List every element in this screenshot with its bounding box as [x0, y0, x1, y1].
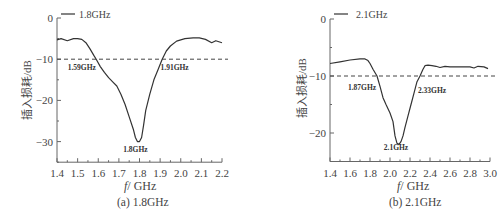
x-tick-label: 1.4	[50, 167, 64, 179]
x-axis-label: f/ GHz	[124, 180, 156, 192]
x-tick-label: 1.8	[133, 167, 147, 179]
x-axis-label: f/ GHz	[397, 180, 429, 192]
chart-caption: (a) 1.8GHz	[117, 197, 169, 209]
legend-label: 2.1GHz	[356, 10, 387, 20]
x-tick-label: 2.6	[443, 167, 457, 179]
annotation-label: 2.33GHz	[418, 86, 447, 95]
y-tick-label: −30	[36, 136, 54, 148]
x-tick-label: 1.5	[71, 167, 85, 179]
x-tick-label: 2.1	[195, 167, 209, 179]
x-tick-label: 1.8	[363, 167, 377, 179]
x-tick-label: 2.0	[383, 167, 397, 179]
x-tick-label: 3.0	[483, 167, 497, 179]
y-tick-label: −10	[36, 53, 54, 65]
annotation-label: 1.87GHz	[348, 83, 377, 92]
series-line	[330, 59, 488, 144]
x-tick-label: 2.4	[423, 167, 437, 179]
chart-b-plot: 0−10−201.41.61.82.02.22.42.62.83.01.87GH…	[252, 0, 504, 218]
x-tick-label: 2.2	[403, 167, 417, 179]
x-tick-label: 2.0	[174, 167, 188, 179]
y-axis-label: 插入损耗/dB	[22, 60, 33, 120]
y-tick-label: 0	[321, 13, 327, 25]
annotation-label: 1.8GHz	[123, 145, 148, 154]
x-tick-label: 2.2	[215, 167, 229, 179]
annotation-label: 1.91GHz	[161, 63, 190, 72]
x-tick-label: 1.6	[343, 167, 357, 179]
x-tick-label: 1.7	[112, 167, 126, 179]
annotation-label: 1.59GHz	[68, 63, 97, 72]
y-tick-label: 0	[48, 12, 54, 24]
x-tick-label: 2.8	[463, 167, 477, 179]
y-axis-label: 插入损耗/dB	[297, 58, 308, 118]
x-tick-label: 1.9	[153, 167, 167, 179]
chart-b: 0−10−201.41.61.82.02.22.42.62.83.01.87GH…	[252, 0, 504, 218]
legend-label: 1.8GHz	[79, 10, 110, 20]
y-tick-label: −10	[309, 70, 327, 82]
x-tick-label: 1.4	[323, 167, 337, 179]
chart-a: 0−10−20−301.41.51.61.71.81.92.02.12.21.5…	[0, 0, 252, 218]
y-tick-label: −20	[36, 94, 54, 106]
annotation-label: 2.1GHz	[384, 143, 409, 152]
series-line	[57, 38, 222, 142]
x-tick-label: 1.6	[91, 167, 105, 179]
chart-caption: (b) 2.1GHz	[389, 197, 441, 209]
y-tick-label: −20	[309, 127, 327, 139]
